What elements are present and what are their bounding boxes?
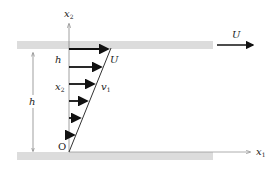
top-plate	[17, 41, 213, 49]
x2-axis-label: x2	[64, 8, 74, 20]
velocity-arrows	[69, 49, 108, 135]
velocity-profile-line	[69, 48, 111, 152]
couette-flow-diagram: x2 x1 U U h h x2 v1 O	[0, 0, 277, 171]
position-label: x2	[55, 81, 65, 93]
velocity-label: v1	[101, 81, 110, 93]
bottom-plate	[17, 152, 213, 160]
height-dimension-label: h	[29, 96, 35, 107]
inner-height-label: h	[55, 54, 61, 65]
x1-axis-label: x1	[256, 146, 265, 158]
origin-label: O	[58, 141, 66, 152]
plate-velocity-label: U	[232, 29, 241, 40]
profile-top-label: U	[110, 54, 119, 65]
